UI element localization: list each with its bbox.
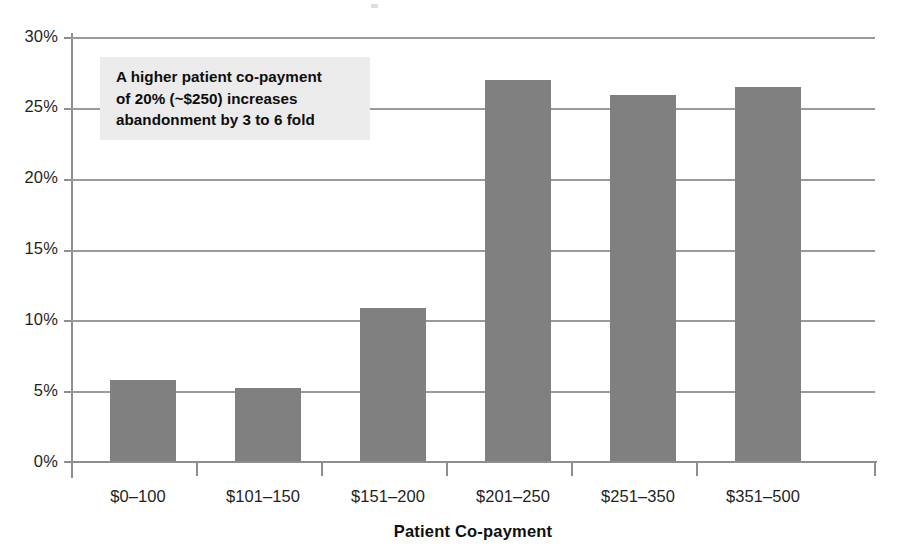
y-axis-tick-mark (64, 250, 71, 252)
y-axis-tick-mark (64, 108, 71, 110)
annotation-line-3: abandonment by 3 to 6 fold (116, 109, 358, 131)
y-axis-tick-label: 0% (0, 452, 58, 471)
y-axis-tick-mark (64, 37, 71, 39)
y-axis-tick-label: 5% (0, 381, 58, 400)
x-axis-tick-mark (874, 462, 876, 476)
x-axis-tick-mark (196, 462, 198, 476)
x-axis-category-label-2: $151–200 (323, 487, 453, 506)
scan-artifact (371, 4, 378, 8)
bar-5 (735, 87, 801, 462)
bar-0 (110, 380, 176, 462)
y-axis-tick-label: 30% (0, 27, 58, 46)
x-axis-title: Patient Co-payment (71, 522, 875, 541)
y-axis-tick-label: 10% (0, 310, 58, 329)
y-axis-tick-label: 20% (0, 168, 58, 187)
x-axis-category-label-4: $251–350 (573, 487, 703, 506)
x-axis-tick-mark (446, 462, 448, 476)
bar-4 (610, 95, 676, 462)
y-axis-tick-mark (64, 461, 71, 463)
x-axis-line (71, 461, 877, 463)
gridline-30 (71, 37, 875, 39)
y-axis-tick-mark (64, 391, 71, 393)
x-axis-category-label-5: $351–500 (698, 487, 828, 506)
y-axis-tick-label: 15% (0, 239, 58, 258)
x-axis-tick-mark (696, 462, 698, 476)
y-axis-tick-label: 25% (0, 97, 58, 116)
annotation-line-1: A higher patient co-payment (116, 66, 358, 88)
bar-1 (235, 388, 301, 462)
bar-chart: 30% 25% 20% 15% 10% 5% 0% $0–100 $101–15… (0, 0, 897, 560)
y-axis-tick-mark (64, 179, 71, 181)
x-axis-category-label-0: $0–100 (73, 487, 203, 506)
x-axis-category-label-3: $201–250 (448, 487, 578, 506)
x-axis-category-label-1: $101–150 (198, 487, 328, 506)
bar-2 (360, 308, 426, 462)
annotation-line-2: of 20% (~$250) increases (116, 88, 358, 110)
x-axis-tick-mark (321, 462, 323, 476)
x-axis-tick-mark (571, 462, 573, 476)
annotation-callout: A higher patient co-payment of 20% (~$25… (100, 57, 370, 140)
y-axis-tick-mark (64, 320, 71, 322)
bar-3 (485, 80, 551, 463)
